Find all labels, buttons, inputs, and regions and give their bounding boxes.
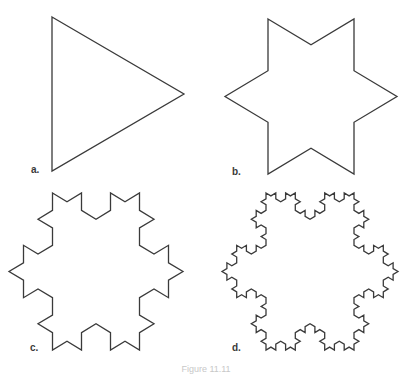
panel-label-a: a. xyxy=(31,164,39,175)
panel-label-b: b. xyxy=(232,166,241,177)
shape-b-star xyxy=(225,19,397,174)
panel-label-d: d. xyxy=(232,342,241,353)
shape-a-triangle xyxy=(52,17,184,171)
panel-label-c: c. xyxy=(30,342,38,353)
figure-caption: Figure 11.11 xyxy=(0,364,412,374)
shape-d-koch-iteration-3 xyxy=(222,193,398,350)
shape-c-koch-iteration-2 xyxy=(9,193,183,350)
